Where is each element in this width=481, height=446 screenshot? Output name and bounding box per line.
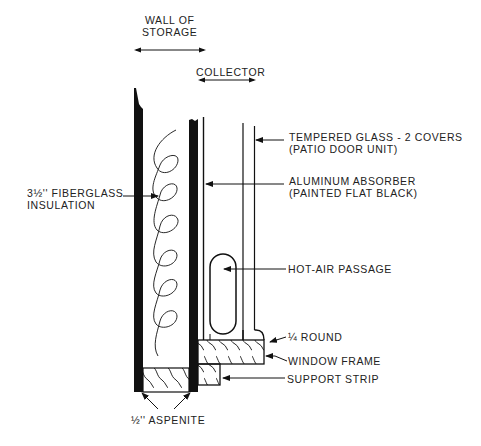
label-aspenite: ½'' ASPENITE — [131, 414, 205, 426]
label-fiberglass-insulation: 3½'' FIBERGLASS INSULATION — [27, 187, 123, 211]
storage-wall-inner-board — [189, 119, 198, 392]
leader-aspenite-left — [142, 393, 158, 409]
label-line: ½'' ASPENITE — [131, 414, 205, 426]
storage-wall-outer-board — [134, 88, 143, 392]
label-aluminum-absorber: ALUMINUM ABSORBER (PAINTED FLAT BLACK) — [289, 175, 418, 199]
leader-aspenite-right — [174, 393, 190, 409]
collector-dimension-arrow — [198, 78, 256, 83]
wall-of-storage-dimension-arrow — [134, 48, 206, 53]
quarter-round-trim — [243, 330, 264, 340]
label-line: ¼ ROUND — [288, 331, 342, 343]
label-line: (PAINTED FLAT BLACK) — [289, 187, 418, 199]
label-window-frame: WINDOW FRAME — [288, 355, 381, 367]
header-wall-of-storage: WALL OF STORAGE — [142, 14, 197, 38]
label-line: INSULATION — [27, 199, 123, 211]
label-hot-air-passage: HOT-AIR PASSAGE — [288, 263, 392, 275]
leader-quarter-round — [270, 337, 286, 342]
label-quarter-round: ¼ ROUND — [288, 331, 342, 343]
label-line: SUPPORT STRIP — [287, 373, 379, 385]
support-strip — [198, 364, 220, 385]
aspenite-base-block — [143, 368, 189, 392]
label-line: TEMPERED GLASS - 2 COVERS — [289, 131, 463, 143]
header-line: STORAGE — [142, 26, 197, 38]
label-line: 3½'' FIBERGLASS — [27, 187, 123, 199]
header-collector: COLLECTOR — [196, 66, 265, 78]
label-support-strip: SUPPORT STRIP — [287, 373, 379, 385]
label-line: (PATIO DOOR UNIT) — [289, 143, 463, 155]
label-line: ALUMINUM ABSORBER — [289, 175, 418, 187]
hot-air-passage-oval — [210, 254, 236, 334]
header-line: COLLECTOR — [196, 66, 265, 78]
label-tempered-glass: TEMPERED GLASS - 2 COVERS (PATIO DOOR UN… — [289, 131, 463, 155]
label-line: HOT-AIR PASSAGE — [288, 263, 392, 275]
header-line: WALL OF — [142, 14, 197, 26]
fiberglass-insulation-coil — [153, 130, 178, 356]
window-frame — [198, 340, 264, 364]
label-line: WINDOW FRAME — [288, 355, 381, 367]
leader-window-frame — [266, 356, 287, 361]
